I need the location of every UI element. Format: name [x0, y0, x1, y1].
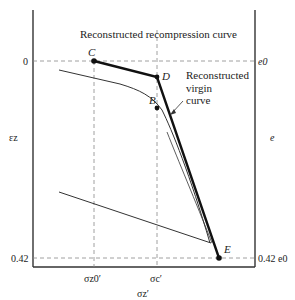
virgin-annotation-line3: curve [186, 94, 211, 106]
recompression-annotation: Reconstructed recompression curve [80, 28, 237, 40]
left-tick-0: 0 [23, 56, 28, 67]
label-C: C [88, 46, 96, 58]
point-D [155, 75, 160, 80]
point-B [155, 106, 160, 111]
guide-lines [33, 30, 255, 267]
left-axis-label: εz [9, 132, 18, 143]
consolidation-diagram: C D B E Reconstructed recompression curv… [0, 0, 295, 300]
field-curve-inner [167, 132, 212, 243]
x-tick-sigma-c: σc′ [150, 273, 162, 284]
point-C [91, 58, 97, 64]
label-E: E [223, 243, 231, 255]
right-tick-042e0: 0.42 e0 [258, 253, 287, 264]
right-axis-label: e [270, 132, 275, 143]
point-E [216, 255, 222, 261]
virgin-annotation-line2: virgin [186, 82, 213, 94]
label-B: B [149, 94, 156, 106]
unload-reload-line [59, 192, 211, 243]
virgin-annotation-line1: Reconstructed [186, 69, 249, 81]
right-tick-e0: e0 [258, 56, 267, 67]
x-tick-sigma-z0: σz0′ [84, 273, 101, 284]
label-D: D [161, 70, 170, 82]
left-tick-042: 0.42 [11, 253, 29, 264]
x-axis-label: σz′ [137, 288, 149, 299]
